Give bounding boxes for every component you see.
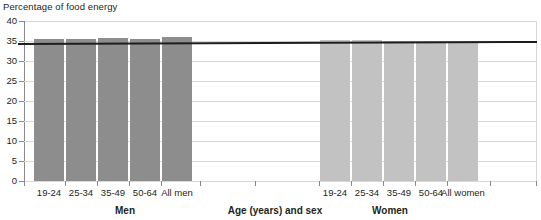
bar <box>352 40 382 181</box>
x-tick-mark <box>255 181 256 186</box>
x-tick-mark <box>351 181 352 186</box>
bar <box>416 41 446 181</box>
y-tick-label: 15 <box>0 116 17 126</box>
x-tick-label: All men <box>147 188 207 198</box>
chart-title: Percentage of food energy <box>3 1 117 13</box>
x-tick-mark <box>97 181 98 186</box>
x-tick-mark <box>200 181 201 186</box>
x-tick-label: All women <box>433 188 493 198</box>
group-label-women: Women <box>345 205 435 217</box>
y-tick-label: 5 <box>0 156 17 166</box>
x-tick-mark <box>129 181 130 186</box>
bar <box>34 39 64 181</box>
group-label-men: Men <box>85 205 165 217</box>
chart-container: Percentage of food energy 05101520253035… <box>0 0 541 220</box>
gridline <box>24 181 537 182</box>
y-tick-label: 35 <box>0 36 17 46</box>
x-tick-mark <box>319 181 320 186</box>
x-tick-mark <box>447 181 448 186</box>
y-tick-label: 25 <box>0 76 17 86</box>
y-tick-label: 30 <box>0 56 17 66</box>
bar <box>130 39 160 181</box>
x-tick-mark <box>161 181 162 186</box>
x-tick-mark <box>536 181 537 186</box>
y-tick-label: 40 <box>0 16 17 26</box>
y-tick-label: 10 <box>0 136 17 146</box>
x-tick-mark <box>490 181 491 186</box>
x-tick-mark <box>415 181 416 186</box>
bars-layer <box>24 21 537 181</box>
x-tick-mark <box>383 181 384 186</box>
bar <box>448 41 478 181</box>
x-tick-mark <box>65 181 66 186</box>
y-tick-label: 0 <box>0 176 17 186</box>
bar <box>66 39 96 181</box>
bar <box>384 41 414 181</box>
x-axis-title: Age (years) and sex <box>205 205 345 217</box>
x-tick-mark <box>24 181 25 186</box>
bar <box>320 40 350 181</box>
bar <box>162 37 192 181</box>
bar <box>98 38 128 181</box>
y-tick-label: 20 <box>0 96 17 106</box>
